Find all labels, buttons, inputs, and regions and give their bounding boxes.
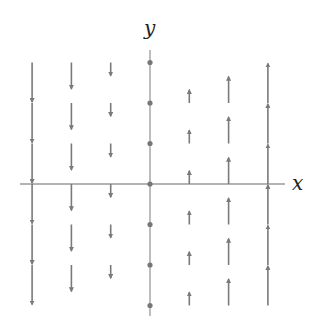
zero-vector-dot <box>147 100 152 105</box>
axes <box>20 50 285 316</box>
zero-vector-dot <box>147 60 152 65</box>
zero-vector-dot <box>147 181 152 186</box>
zero-vector-dot <box>147 262 152 267</box>
zero-vector-dot <box>147 222 152 227</box>
zero-vector-dot <box>147 303 152 308</box>
y-axis-label: y <box>143 16 156 40</box>
vector-field-diagram: y x <box>0 0 321 321</box>
x-axis-label: x <box>292 171 303 195</box>
zero-vector-dot <box>147 141 152 146</box>
